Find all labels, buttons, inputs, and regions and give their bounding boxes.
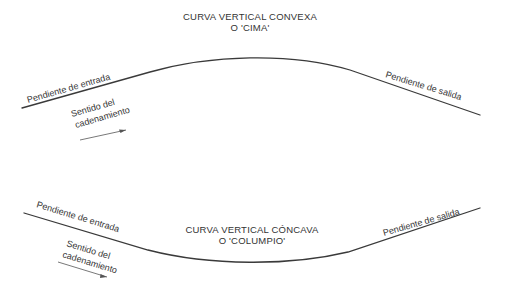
convex-curve-group: CURVA VERTICAL CONVEXA O 'CIMA' Pendient… [22, 11, 480, 140]
convex-title-line2: O 'CIMA' [230, 22, 269, 33]
convex-title-line1: CURVA VERTICAL CONVEXA [183, 11, 317, 22]
concave-title-line2: O 'COLUMPIO' [219, 235, 286, 246]
vertical-curves-diagram: CURVA VERTICAL CONVEXA O 'CIMA' Pendient… [0, 0, 505, 293]
concave-exit-slope-label: Pendiente de salida [382, 207, 461, 238]
concave-title-line1: CURVA VERTICAL CÓNCAVA [185, 224, 318, 235]
convex-direction-arrow-icon [80, 130, 126, 141]
convex-entry-slope-label: Pendiente de entrada [26, 72, 111, 105]
concave-curve-group: CURVA VERTICAL CÓNCAVA O 'COLUMPIO' Pend… [24, 199, 480, 278]
